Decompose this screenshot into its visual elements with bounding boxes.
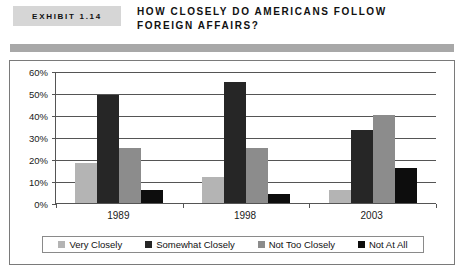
legend-item[interactable]: Very Closely (58, 239, 122, 250)
y-axis-tick-label: 10% (10, 177, 48, 188)
bar (141, 190, 163, 203)
legend-item[interactable]: Not Too Closely (258, 239, 335, 250)
bar (224, 82, 246, 203)
bar (202, 177, 224, 203)
y-axis-tickmark (52, 94, 56, 95)
x-axis-tickmark (309, 204, 310, 208)
bar (119, 148, 141, 203)
y-axis-tick-label: 20% (10, 155, 48, 166)
y-axis-tick-label: 30% (10, 133, 48, 144)
exhibit-tag: EXHIBIT 1.14 (13, 6, 121, 26)
legend-label: Very Closely (69, 239, 122, 250)
x-axis-tickmark (183, 204, 184, 208)
x-axis-tickmark (56, 204, 57, 208)
legend-swatch-icon (358, 241, 365, 248)
exhibit-header: EXHIBIT 1.14 HOW CLOSELY DO AMERICANS FO… (0, 0, 464, 52)
y-axis-tickmark (52, 138, 56, 139)
x-axis-tickmark (436, 204, 437, 208)
x-axis-category-label: 2003 (361, 210, 383, 221)
exhibit-title: HOW CLOSELY DO AMERICANS FOLLOW FOREIGN … (137, 5, 447, 33)
y-axis-tick-label: 0% (10, 199, 48, 210)
bar (97, 95, 119, 203)
bar (75, 163, 97, 203)
plot-area (55, 72, 436, 204)
legend-swatch-icon (145, 241, 152, 248)
bar (246, 148, 268, 203)
legend-label: Somewhat Closely (156, 239, 235, 250)
x-axis-baseline (56, 203, 436, 204)
exhibit-tag-label: EXHIBIT 1.14 (32, 12, 102, 21)
chart-frame: 0%10%20%30%40%50%60% 198919982003 Very C… (9, 60, 455, 265)
legend-item[interactable]: Not At All (358, 239, 408, 250)
bar (329, 190, 351, 203)
gridline (56, 72, 436, 73)
bar (351, 130, 373, 203)
y-axis-tickmark (52, 116, 56, 117)
y-axis-tick-label: 60% (10, 67, 48, 78)
bar (395, 168, 417, 203)
legend-item[interactable]: Somewhat Closely (145, 239, 235, 250)
bar (373, 115, 395, 203)
bar (268, 194, 290, 203)
header-divider-rule (10, 44, 454, 52)
x-axis-category-label: 1998 (234, 210, 256, 221)
legend-label: Not At All (369, 239, 408, 250)
y-axis-tickmark (52, 72, 56, 73)
legend-label: Not Too Closely (269, 239, 335, 250)
legend-swatch-icon (58, 241, 65, 248)
y-axis-tickmark (52, 160, 56, 161)
x-axis-category-label: 1989 (107, 210, 129, 221)
y-axis-tickmark (52, 182, 56, 183)
y-axis-tick-label: 40% (10, 111, 48, 122)
y-axis-tick-label: 50% (10, 89, 48, 100)
chart-legend: Very CloselySomewhat CloselyNot Too Clos… (42, 236, 424, 253)
legend-swatch-icon (258, 241, 265, 248)
